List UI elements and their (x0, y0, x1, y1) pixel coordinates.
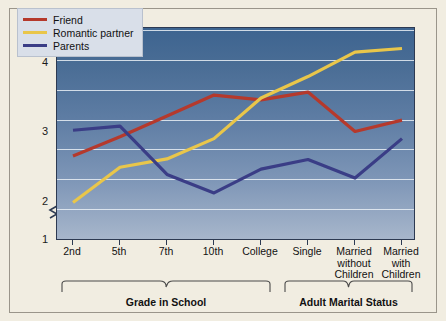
legend-swatch-friend (23, 18, 47, 21)
series-lines (57, 28, 415, 240)
legend-swatch-romantic-partner (23, 31, 47, 34)
legend: Friend Romantic partner Parents (17, 8, 143, 57)
series-line-friend (73, 92, 402, 156)
plot-area (56, 27, 415, 240)
x-tick-label-line: Children (366, 269, 436, 281)
x-tick-label-7: MarriedwithChildren (366, 246, 436, 281)
brace-adult-marital-status (283, 280, 414, 292)
y-tick-label-3: 3 (30, 126, 48, 137)
y-tick-label-4: 4 (30, 57, 48, 68)
x-tick-label-line: Married (366, 246, 436, 258)
legend-item-friend[interactable]: Friend (23, 13, 134, 26)
legend-item-romantic-partner[interactable]: Romantic partner (23, 26, 134, 39)
legend-label-parents: Parents (53, 40, 89, 52)
legend-label-friend: Friend (53, 14, 83, 26)
legend-swatch-parents (23, 44, 47, 47)
legend-label-romantic-partner: Romantic partner (53, 27, 134, 39)
y-tick-label-1: 1 (30, 234, 48, 245)
chart-figure: Mean Self-Disclosure Score 5 4 3 2 1 Fri… (0, 0, 446, 321)
group-label-adult-marital-status: Adult Marital Status (283, 296, 414, 308)
legend-item-parents[interactable]: Parents (23, 39, 134, 52)
brace-grade-in-school (60, 280, 272, 292)
group-label-grade-in-school: Grade in School (60, 296, 272, 308)
